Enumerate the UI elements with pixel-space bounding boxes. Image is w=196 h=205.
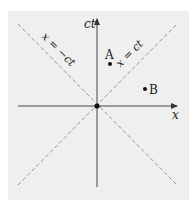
spacetime-diagram: ct x x = ct x = −ct A B bbox=[0, 0, 196, 205]
point-origin bbox=[94, 103, 99, 108]
point-b bbox=[143, 87, 147, 91]
ct-axis-label: ct bbox=[84, 17, 96, 31]
point-a bbox=[108, 62, 112, 66]
point-a-label: A bbox=[104, 48, 114, 62]
light-line-label-x-eq-ct: x = ct bbox=[113, 37, 146, 70]
light-line-label-x-eq-neg-ct: x = −ct bbox=[39, 30, 78, 69]
x-axis-label: x bbox=[172, 108, 179, 122]
point-b-label: B bbox=[149, 83, 158, 97]
